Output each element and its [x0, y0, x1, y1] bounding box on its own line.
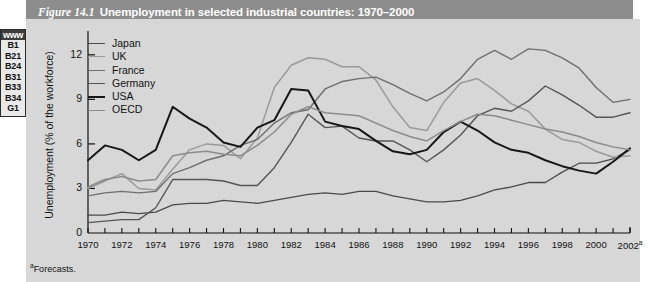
legend-item-oecd: OECD — [88, 103, 155, 116]
series-line-germany — [88, 86, 630, 223]
figure-footnote: aForecasts. — [30, 262, 76, 274]
legend-item-germany: Germany — [88, 77, 155, 90]
legend-label-uk: UK — [112, 50, 127, 63]
legend-swatch-usa — [88, 96, 105, 98]
series-line-oecd — [88, 107, 630, 187]
legend-item-france: France — [88, 64, 155, 77]
legend-swatch-france — [88, 70, 105, 71]
margin-code-5: B34 — [1, 93, 25, 104]
series-line-uk — [88, 58, 630, 190]
margin-code-6: G1 — [1, 103, 25, 114]
legend-item-usa: USA — [88, 90, 155, 103]
legend-label-germany: Germany — [112, 77, 155, 90]
y-axis-label: Unemployment (% of the workforce) — [43, 50, 55, 220]
legend-label-japan: Japan — [112, 37, 141, 50]
x-tick-label: 2002a — [610, 239, 650, 251]
y-tick-label: 9 — [60, 92, 82, 104]
margin-code-4: B33 — [1, 82, 25, 93]
margin-code-0: B1 — [1, 40, 25, 51]
margin-resource-tab: www B1 B21 B24 B31 B33 B34 G1 — [0, 29, 26, 117]
y-tick-label: 6 — [60, 137, 82, 149]
figure-number: Figure 14.1 — [38, 6, 95, 18]
chart-legend: JapanUKFranceGermanyUSAOECD — [88, 37, 155, 117]
figure-title-bar: Figure 14.1Unemployment in selected indu… — [26, 0, 633, 19]
y-tick-label: 3 — [60, 181, 82, 193]
legend-swatch-oecd — [88, 110, 105, 111]
legend-label-usa: USA — [112, 90, 134, 103]
figure-page: www B1 B21 B24 B31 B33 B34 G1 Figure 14.… — [0, 0, 659, 282]
legend-item-japan: Japan — [88, 37, 155, 50]
www-label: www — [1, 30, 25, 40]
y-tick-label: 0 — [60, 226, 82, 238]
legend-swatch-uk — [88, 56, 105, 57]
legend-label-oecd: OECD — [112, 103, 142, 116]
margin-code-3: B31 — [1, 72, 25, 83]
legend-swatch-japan — [88, 43, 105, 44]
legend-item-uk: UK — [88, 50, 155, 63]
y-tick-label: 12 — [60, 48, 82, 60]
legend-label-france: France — [112, 64, 145, 77]
legend-swatch-germany — [88, 83, 105, 84]
plot-area: Unemployment (% of the workforce) 036912… — [26, 19, 640, 282]
series-layer — [88, 49, 630, 223]
margin-code-1: B21 — [1, 51, 25, 62]
figure-title: Unemployment in selected industrial coun… — [100, 6, 415, 18]
margin-code-2: B24 — [1, 61, 25, 72]
footnote-text: Forecasts. — [34, 264, 76, 274]
chart-panel: Unemployment (% of the workforce) 036912… — [26, 19, 640, 282]
